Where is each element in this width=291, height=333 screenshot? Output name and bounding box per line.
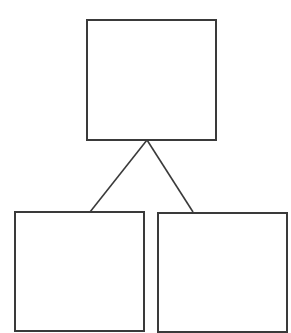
edge-root-to-left: [90, 140, 147, 212]
edge-root-to-right: [147, 140, 193, 212]
left-child-node-box: [14, 211, 145, 332]
root-node-box: [86, 19, 217, 141]
tree-diagram: [0, 0, 291, 333]
right-child-node-box: [157, 212, 288, 333]
